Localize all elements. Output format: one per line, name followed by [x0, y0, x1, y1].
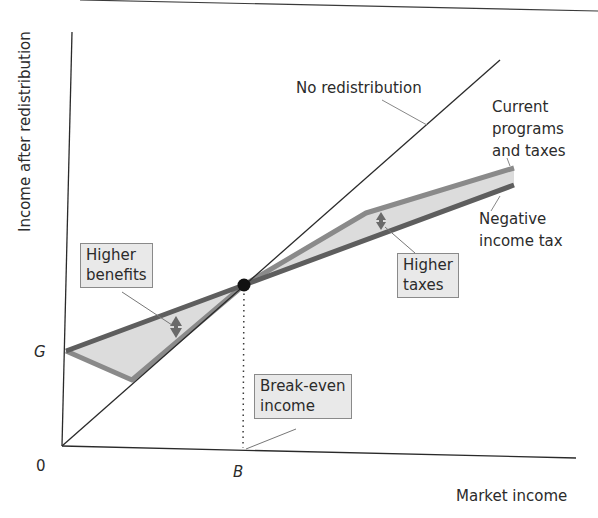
break-even-dotted-line: [243, 288, 244, 448]
origin-label: 0: [36, 456, 46, 476]
y-axis-label: Income after redistribution: [16, 31, 34, 232]
current-programs-label: Current programs and taxes: [492, 96, 566, 162]
break-even-line2: income: [260, 396, 346, 416]
break-even-leader: [246, 429, 296, 449]
x-tick-B: B: [233, 462, 243, 482]
break-even-point: [238, 279, 251, 292]
negative-income-tax-label-line1: Negative: [479, 208, 563, 230]
higher-taxes-line1: Higher: [403, 255, 453, 275]
redistribution-diagram: Income after redistribution 0 B G Market…: [0, 0, 598, 518]
negative-income-tax-label-line2: income tax: [479, 230, 563, 252]
higher-benefits-line1: Higher: [86, 245, 147, 265]
x-axis-label: Market income: [456, 486, 567, 506]
page-border-line: [80, 0, 598, 11]
higher-taxes-line2: taxes: [403, 275, 453, 295]
current-programs-label-line3: and taxes: [492, 140, 566, 162]
no-redistribution-leader: [382, 100, 427, 125]
current-programs-label-line1: Current: [492, 96, 566, 118]
higher-benefits-box: Higher benefits: [80, 243, 153, 288]
higher-taxes-box: Higher taxes: [397, 253, 459, 298]
higher-benefits-band: [66, 285, 244, 380]
y-tick-G: G: [34, 342, 46, 362]
higher-taxes-leader: [385, 227, 415, 253]
x-axis: [62, 446, 576, 458]
current-programs-label-line2: programs: [492, 118, 566, 140]
break-even-income-box: Break-even income: [254, 374, 352, 419]
higher-benefits-line2: benefits: [86, 265, 147, 285]
break-even-line1: Break-even: [260, 376, 346, 396]
no-redistribution-label: No redistribution: [296, 78, 422, 98]
y-axis: [62, 32, 72, 446]
negative-income-tax-label: Negative income tax: [479, 208, 563, 252]
